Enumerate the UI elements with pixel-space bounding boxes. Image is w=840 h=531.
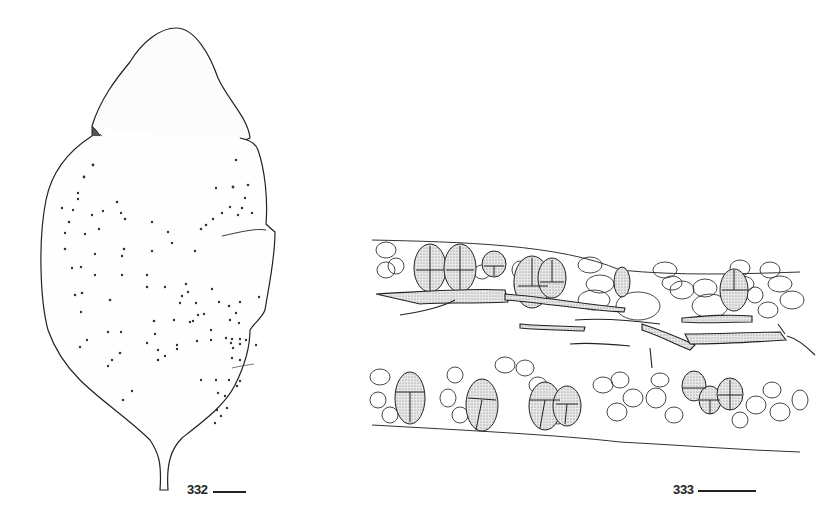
figure-332-label: 332 xyxy=(187,482,208,497)
figure-332-scale-bar xyxy=(213,491,246,493)
figure-333: 333 xyxy=(360,220,820,480)
figure-333-label: 333 xyxy=(673,482,694,497)
figure-332: 332 xyxy=(0,0,320,531)
figure-332-drawing xyxy=(0,0,320,531)
figure-333-drawing xyxy=(360,220,820,480)
figure-333-scale-bar xyxy=(698,490,756,492)
